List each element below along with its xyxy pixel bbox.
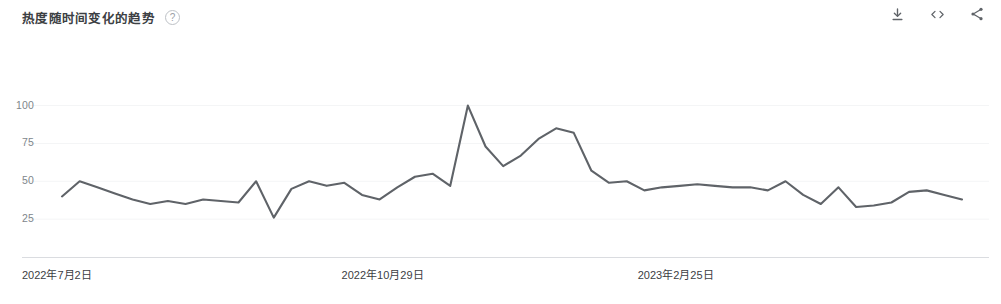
x-axis-tick-label: 2023年2月25日 xyxy=(638,266,714,282)
y-axis-tick-label: 50 xyxy=(0,174,34,186)
x-axis-tick-label: 2022年7月2日 xyxy=(22,266,92,282)
page-title: 热度随时间变化的趋势 xyxy=(22,8,155,27)
help-icon[interactable]: ? xyxy=(165,10,180,25)
chart-svg[interactable] xyxy=(0,34,1001,304)
share-icon[interactable] xyxy=(967,4,987,24)
widget-header: 热度随时间变化的趋势 ? xyxy=(0,0,1001,34)
series-line xyxy=(62,106,962,218)
y-axis-tick-label: 75 xyxy=(0,136,34,148)
embed-icon[interactable] xyxy=(927,4,947,24)
title-group: 热度随时间变化的趋势 ? xyxy=(22,8,180,27)
x-axis-line xyxy=(22,257,989,258)
chart-area[interactable]: 255075100 2022年7月2日2022年10月29日2023年2月25日 xyxy=(0,34,1001,304)
x-axis-tick-label: 2022年10月29日 xyxy=(342,266,424,282)
download-icon[interactable] xyxy=(887,4,907,24)
y-axis-tick-label: 25 xyxy=(0,212,34,224)
trends-interest-over-time-widget: 热度随时间变化的趋势 ? xyxy=(0,0,1001,304)
y-axis-tick-label: 100 xyxy=(0,99,34,111)
header-actions xyxy=(887,4,987,24)
line-chart-plot[interactable] xyxy=(0,34,1001,304)
